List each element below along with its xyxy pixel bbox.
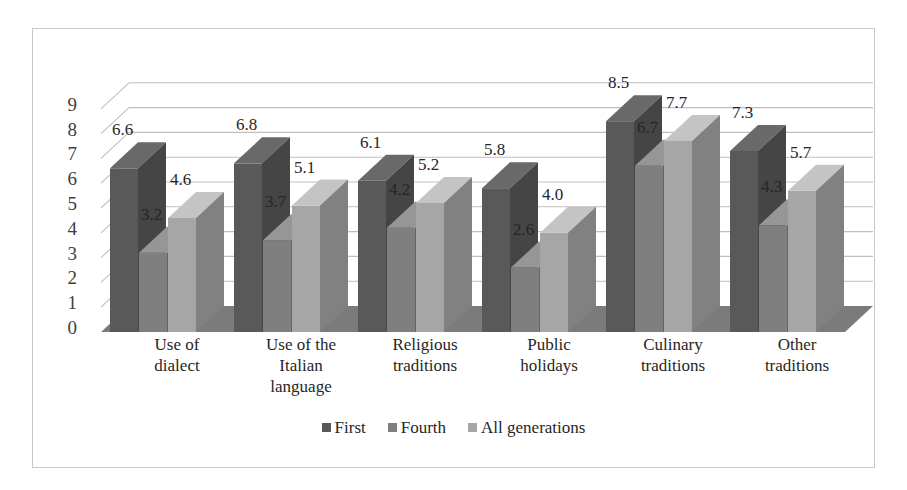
x-axis-category-label: Othertraditions xyxy=(735,334,859,376)
category-label-line: dialect xyxy=(115,355,239,376)
data-label: 4.0 xyxy=(542,186,563,203)
data-label: 6.7 xyxy=(637,119,658,136)
data-label: 3.7 xyxy=(265,193,286,210)
y-axis-tick-label: 9 xyxy=(55,95,77,114)
chart-3d-canvas xyxy=(33,29,874,369)
x-axis-category-labels: Use ofdialectUse of theItalianlanguageRe… xyxy=(33,334,874,424)
plot-area xyxy=(33,29,874,369)
data-label: 5.8 xyxy=(484,141,505,158)
y-axis-tick-label: 5 xyxy=(55,194,77,213)
chart-frame: 0123456789 6.63.24.66.83.75.16.14.25.25.… xyxy=(32,28,875,468)
data-label: 5.7 xyxy=(790,144,811,161)
data-label: 8.5 xyxy=(608,74,629,91)
category-label-line: traditions xyxy=(611,355,735,376)
data-label: 2.6 xyxy=(513,221,534,238)
y-axis-tick-label: 4 xyxy=(55,219,77,238)
legend-label: First xyxy=(335,419,366,436)
data-label: 6.6 xyxy=(112,121,133,138)
data-label: 3.2 xyxy=(141,206,162,223)
x-axis-category-label: Religioustraditions xyxy=(363,334,487,376)
chart-legend: FirstFourthAll generations xyxy=(33,419,874,436)
legend-swatch-icon xyxy=(388,423,397,432)
category-label-line: holidays xyxy=(487,355,611,376)
category-label-line: Religious xyxy=(363,334,487,355)
data-label: 6.1 xyxy=(360,134,381,151)
category-label-line: Culinary xyxy=(611,334,735,355)
data-label: 4.2 xyxy=(389,181,410,198)
category-label-line: Use of xyxy=(115,334,239,355)
category-label-line: traditions xyxy=(363,355,487,376)
legend-label: All generations xyxy=(481,419,585,436)
category-label-line: language xyxy=(239,376,363,397)
data-label: 4.6 xyxy=(170,171,191,188)
data-label: 4.3 xyxy=(761,178,782,195)
data-label: 5.1 xyxy=(294,159,315,176)
category-label-line: traditions xyxy=(735,355,859,376)
legend-item-first[interactable]: First xyxy=(322,419,366,436)
category-label-line: Italian xyxy=(239,355,363,376)
data-label: 7.7 xyxy=(666,94,687,111)
y-axis-tick-label: 1 xyxy=(55,293,77,312)
legend-swatch-icon xyxy=(322,423,331,432)
data-label: 7.3 xyxy=(732,104,753,121)
legend-item-fourth[interactable]: Fourth xyxy=(388,419,446,436)
y-axis-tick-label: 7 xyxy=(55,144,77,163)
legend-item-all-generations[interactable]: All generations xyxy=(468,419,585,436)
y-axis-tick-label: 6 xyxy=(55,169,77,188)
data-label: 6.8 xyxy=(236,116,257,133)
category-label-line: Other xyxy=(735,334,859,355)
y-axis-tick-label: 2 xyxy=(55,268,77,287)
category-label-line: Use of the xyxy=(239,334,363,355)
x-axis-category-label: Culinarytraditions xyxy=(611,334,735,376)
x-axis-category-label: Use of theItalianlanguage xyxy=(239,334,363,397)
x-axis-category-label: Publicholidays xyxy=(487,334,611,376)
data-label: 5.2 xyxy=(418,156,439,173)
legend-label: Fourth xyxy=(401,419,446,436)
legend-swatch-icon xyxy=(468,423,477,432)
y-axis-tick-label: 8 xyxy=(55,120,77,139)
y-axis-tick-label: 3 xyxy=(55,244,77,263)
category-label-line: Public xyxy=(487,334,611,355)
x-axis-category-label: Use ofdialect xyxy=(115,334,239,376)
